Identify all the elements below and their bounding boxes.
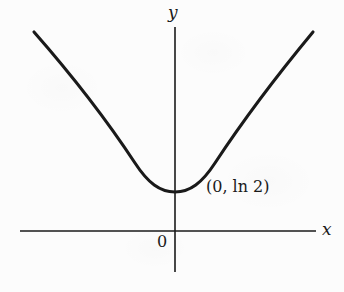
y-axis-label: y xyxy=(168,4,178,21)
plot-canvas xyxy=(0,0,344,292)
point-annotation-label: (0, ln 2) xyxy=(206,179,270,195)
curve-path xyxy=(34,32,313,192)
graph-figure: y x 0 (0, ln 2) xyxy=(0,0,344,292)
origin-label: 0 xyxy=(157,234,167,250)
x-axis-label: x xyxy=(322,221,332,238)
